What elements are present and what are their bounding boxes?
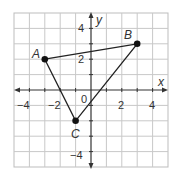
point-a: [42, 56, 49, 63]
y-axis-arrow-down-icon: [89, 163, 94, 169]
x-tick-label: 4: [149, 99, 155, 111]
y-tick-label: 4: [78, 22, 84, 34]
point-c: [72, 118, 79, 125]
x-axis-arrow-left-icon: [14, 88, 20, 93]
axes: [14, 12, 168, 169]
y-axis-label: y: [95, 13, 103, 27]
y-tick-label: 2: [78, 53, 84, 65]
point-b: [134, 41, 141, 48]
origin-label: 0: [81, 93, 87, 105]
x-tick-label: 2: [118, 99, 124, 111]
y-tick-label: −4: [70, 149, 83, 161]
point-b-label: B: [124, 28, 132, 42]
x-tick-label: −4: [17, 99, 30, 111]
x-tick-label: −2: [48, 99, 61, 111]
point-c-label: C: [71, 127, 80, 141]
coordinate-plane: x y −4 −2 0 2 4 4 2 −4 A B C: [0, 0, 175, 177]
x-axis-label: x: [157, 75, 165, 89]
point-a-label: A: [31, 47, 40, 61]
